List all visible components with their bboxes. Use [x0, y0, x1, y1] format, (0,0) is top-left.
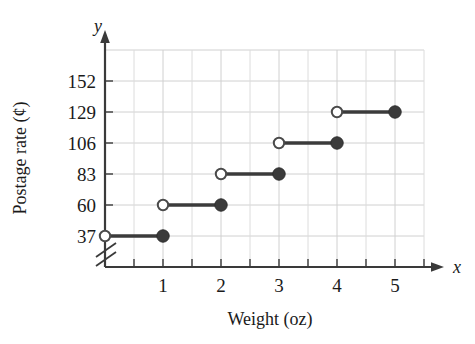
step-open-endpoint-2 [158, 200, 168, 210]
step-closed-endpoint-5 [389, 106, 401, 118]
y-tick-label-129: 129 [68, 102, 97, 123]
y-axis-title: Postage rate (¢) [10, 102, 31, 215]
y-tick-label-106: 106 [68, 133, 97, 154]
x-tick-label-3: 3 [274, 275, 284, 296]
y-tick-label-152: 152 [68, 71, 97, 92]
step-open-endpoint-4 [274, 138, 284, 148]
x-tick-label-1: 1 [158, 275, 168, 296]
chart-canvas: 37 60 83 106 129 152 1 2 3 4 5 y x Weigh… [0, 0, 475, 344]
step-open-endpoint-5 [332, 107, 342, 117]
x-tick-label-5: 5 [390, 275, 400, 296]
y-tick-label-37: 37 [77, 226, 96, 247]
x-tick-label-2: 2 [216, 275, 226, 296]
step-closed-endpoint-2 [215, 199, 227, 211]
postage-rate-step-chart: 37 60 83 106 129 152 1 2 3 4 5 y x Weigh… [0, 0, 475, 344]
step-closed-endpoint-4 [331, 137, 343, 149]
y-tick-label-60: 60 [77, 195, 96, 216]
y-tick-label-83: 83 [77, 164, 96, 185]
y-tick-labels: 37 60 83 106 129 152 [68, 71, 97, 247]
x-tick-label-4: 4 [332, 275, 342, 296]
x-axis-arrowhead [431, 262, 444, 272]
step-open-endpoint-1 [100, 231, 110, 241]
x-axis-title: Weight (oz) [227, 309, 312, 330]
x-tick-labels: 1 2 3 4 5 [158, 275, 400, 296]
step-open-endpoint-3 [216, 169, 226, 179]
step-closed-endpoint-3 [273, 168, 285, 180]
y-axis-symbol: y [92, 16, 102, 36]
x-axis-symbol: x [452, 257, 461, 277]
step-closed-endpoint-1 [157, 230, 169, 242]
